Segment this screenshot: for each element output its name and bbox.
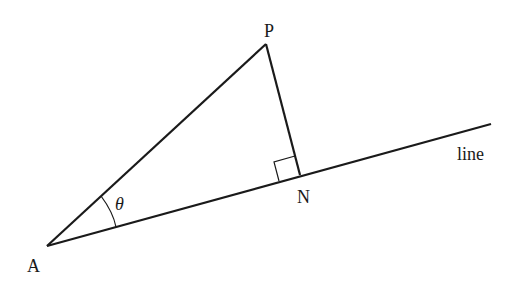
label-n: N — [297, 187, 310, 207]
label-p: P — [264, 21, 274, 41]
label-line: line — [457, 144, 484, 164]
right-angle-marker — [274, 156, 295, 181]
angle-arc-theta — [101, 196, 116, 227]
segment-pn — [266, 44, 300, 175]
label-a: A — [27, 256, 40, 276]
label-theta: θ — [115, 194, 124, 214]
triangle-diagram: P A N line θ — [0, 0, 512, 285]
diagram-canvas: P A N line θ — [0, 0, 512, 285]
